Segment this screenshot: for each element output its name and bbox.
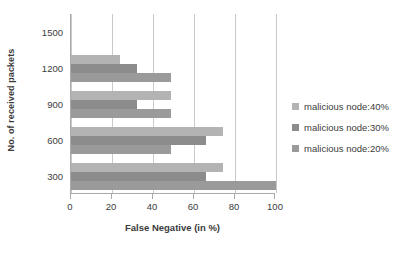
x-axis-tick-label: 60 xyxy=(188,201,199,212)
bar xyxy=(71,145,171,154)
legend-swatch-icon xyxy=(292,103,299,110)
chart-legend: malicious node:40%malicious node:30%mali… xyxy=(292,96,410,159)
legend-swatch-icon xyxy=(292,145,299,152)
y-axis-title-label: No. of received packets xyxy=(6,49,16,152)
y-axis-title: No. of received packets xyxy=(0,0,22,200)
x-axis-tick-mark xyxy=(274,194,275,199)
x-axis-title: False Negative (in %) xyxy=(70,222,275,233)
x-axis-tick-label: 40 xyxy=(147,201,158,212)
bar xyxy=(71,55,120,64)
x-axis-tick-labels: 020406080100 xyxy=(70,201,275,215)
y-axis-tick-label: 900 xyxy=(21,99,63,110)
bar xyxy=(71,100,137,109)
bar xyxy=(71,91,171,100)
legend-item: malicious node:20% xyxy=(292,138,410,159)
gridline xyxy=(276,14,277,193)
legend-item: malicious node:30% xyxy=(292,117,410,138)
legend-swatch-icon xyxy=(292,124,299,131)
legend-item-label: malicious node:30% xyxy=(304,122,389,133)
bar xyxy=(71,136,206,145)
bar xyxy=(71,181,276,190)
x-axis-tick-mark xyxy=(193,194,194,199)
y-axis-tick-labels: 15001200900600300 xyxy=(22,14,68,194)
x-axis-tick-label: 20 xyxy=(106,201,117,212)
bar xyxy=(71,73,171,82)
x-axis-tick-mark xyxy=(70,194,71,199)
x-axis-tick-marks xyxy=(70,194,275,200)
bar xyxy=(71,172,206,181)
legend-item: malicious node:40% xyxy=(292,96,410,117)
bars-layer xyxy=(71,14,275,193)
bar xyxy=(71,109,171,118)
bar xyxy=(71,163,223,172)
x-axis-tick-label: 100 xyxy=(267,201,283,212)
x-axis-tick-mark xyxy=(152,194,153,199)
x-axis-tick-mark xyxy=(234,194,235,199)
legend-item-label: malicious node:20% xyxy=(304,143,389,154)
y-axis-tick-label: 1200 xyxy=(21,63,63,74)
bar-chart: No. of received packets 1500120090060030… xyxy=(0,0,412,254)
plot-area xyxy=(70,14,275,194)
x-axis-tick-label: 80 xyxy=(229,201,240,212)
y-axis-tick-label: 300 xyxy=(21,171,63,182)
y-axis-tick-label: 600 xyxy=(21,135,63,146)
bar xyxy=(71,127,223,136)
y-axis-tick-label: 1500 xyxy=(21,27,63,38)
x-axis-tick-label: 0 xyxy=(67,201,72,212)
legend-item-label: malicious node:40% xyxy=(304,101,389,112)
x-axis-tick-mark xyxy=(111,194,112,199)
bar xyxy=(71,64,137,73)
